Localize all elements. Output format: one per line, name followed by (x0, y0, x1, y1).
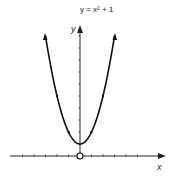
parabola-plot (0, 0, 176, 178)
x-axis-label: x (157, 162, 162, 172)
x-axis-arrow-icon (158, 153, 166, 159)
curve-end-arrow-right-icon (113, 33, 118, 40)
origin-marker (77, 153, 83, 159)
y-axis-label: y (71, 24, 76, 34)
chart-title: y = x² + 1 (80, 5, 113, 14)
curve-end-arrow-left-icon (43, 33, 48, 40)
y-axis-arrow-icon (77, 25, 83, 33)
